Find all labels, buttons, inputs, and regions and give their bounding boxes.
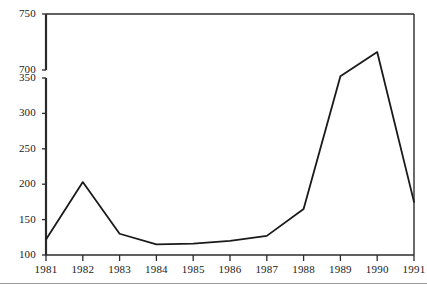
line-chart: 750700350300250200150100 198119821983198… <box>0 0 427 292</box>
x-tick-label-1986: 1986 <box>210 263 250 275</box>
data-line-series-1 <box>46 52 414 244</box>
x-tick-label-1985: 1985 <box>173 263 213 275</box>
y-tick-label-300: 300 <box>4 106 36 118</box>
x-tick-label-1990: 1990 <box>357 263 397 275</box>
footer-rule <box>0 283 427 284</box>
x-tick-label-1981: 1981 <box>26 263 66 275</box>
x-tick-label-1991: 1991 <box>394 263 427 275</box>
x-tick-label-1983: 1983 <box>100 263 140 275</box>
y-tick-label-350: 350 <box>4 71 36 83</box>
chart-canvas <box>0 0 427 292</box>
x-tick-label-1984: 1984 <box>136 263 176 275</box>
x-tick-label-1982: 1982 <box>63 263 103 275</box>
x-tick-label-1987: 1987 <box>247 263 287 275</box>
y-tick-label-100: 100 <box>4 248 36 260</box>
y-tick-label-750: 750 <box>4 7 36 19</box>
x-tick-label-1989: 1989 <box>320 263 360 275</box>
y-tick-label-150: 150 <box>4 213 36 225</box>
y-tick-label-200: 200 <box>4 177 36 189</box>
x-tick-label-1988: 1988 <box>284 263 324 275</box>
y-tick-label-250: 250 <box>4 142 36 154</box>
